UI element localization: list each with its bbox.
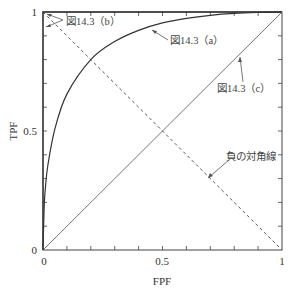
x-tick-0: 0 (41, 255, 47, 267)
annotation-b: 図14.3（b） (66, 16, 120, 27)
x-axis-title: FPF (153, 275, 171, 287)
annotation-negative-diagonal: 負の対角線 (226, 150, 277, 162)
annotation-c: 図14.3（c） (217, 83, 270, 94)
x-tick-1: 1 (279, 255, 285, 267)
y-tick-1: 1 (32, 6, 38, 18)
y-tick-05: 0.5 (23, 125, 37, 137)
roc-chart: 1 0.5 0 0 0.5 1 FPF TPF 図14.3（b） 図14.3（a… (0, 0, 293, 288)
y-axis-title: TPF (7, 122, 19, 141)
x-tick-05: 0.5 (155, 255, 169, 267)
y-tick-0: 0 (32, 244, 38, 256)
annotation-a: 図14.3（a） (170, 35, 223, 46)
